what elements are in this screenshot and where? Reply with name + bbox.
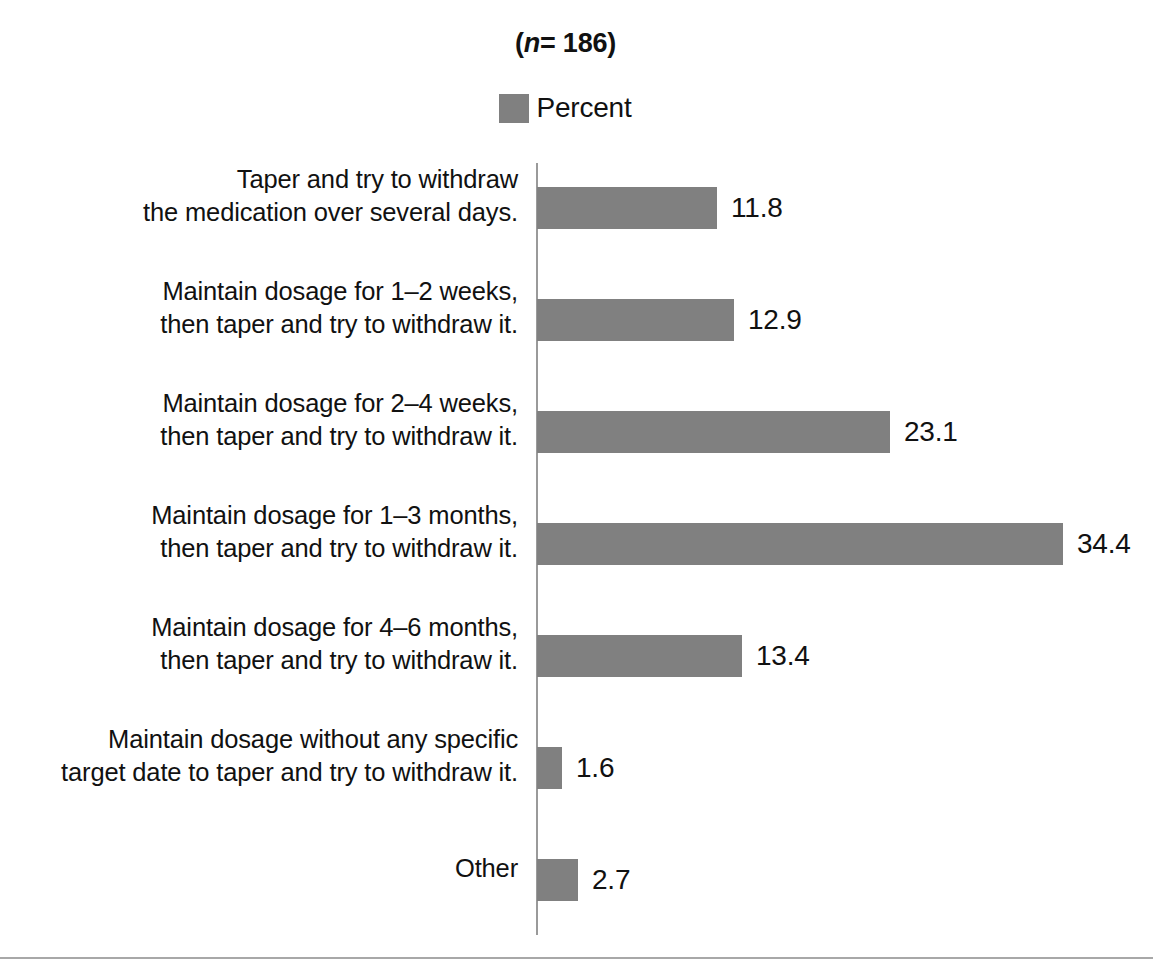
bar-row: Maintain dosage for 4–6 months, then tap… [0, 614, 1153, 726]
bar-value-label: 23.1 [904, 411, 958, 453]
plot-area: Taper and try to withdraw the medication… [0, 0, 1153, 970]
category-label: Taper and try to withdraw the medication… [0, 163, 518, 229]
category-label: Maintain dosage without any specific tar… [0, 723, 518, 789]
bar-segment [537, 523, 1063, 565]
bar-segment [537, 635, 742, 677]
bar-segment [537, 859, 578, 901]
bar-row: Other 2.7 [0, 838, 1153, 950]
category-label: Other [0, 852, 518, 885]
bar-segment [537, 187, 717, 229]
bar-value-label: 34.4 [1077, 523, 1131, 565]
bar-row: Maintain dosage for 1–3 months, then tap… [0, 502, 1153, 614]
bar-value-label: 11.8 [731, 187, 783, 229]
category-label: Maintain dosage for 1–2 weeks, then tape… [0, 275, 518, 341]
bar-row: Maintain dosage for 1–2 weeks, then tape… [0, 278, 1153, 390]
bar-row: Taper and try to withdraw the medication… [0, 166, 1153, 278]
bar-row: Maintain dosage for 2–4 weeks, then tape… [0, 390, 1153, 502]
bar-row: Maintain dosage without any specific tar… [0, 726, 1153, 838]
category-label: Maintain dosage for 1–3 months, then tap… [0, 499, 518, 565]
bar-chart-figure: (n= 186) Percent Taper and try to withdr… [0, 0, 1153, 970]
bar-value-label: 12.9 [748, 299, 802, 341]
bottom-divider [0, 957, 1153, 959]
bar-value-label: 2.7 [592, 859, 630, 901]
bar-segment [537, 747, 562, 789]
bar-value-label: 13.4 [756, 635, 810, 677]
bar-segment [537, 299, 734, 341]
category-label: Maintain dosage for 4–6 months, then tap… [0, 611, 518, 677]
category-label: Maintain dosage for 2–4 weeks, then tape… [0, 387, 518, 453]
bar-segment [537, 411, 890, 453]
bar-value-label: 1.6 [576, 747, 614, 789]
